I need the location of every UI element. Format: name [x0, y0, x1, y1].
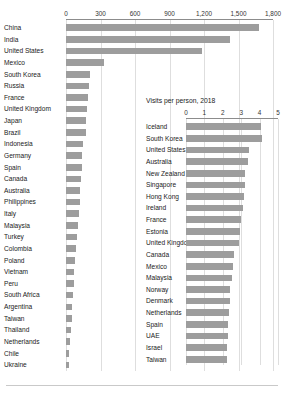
- category-label: Netherlands: [146, 307, 186, 319]
- bar: [186, 298, 230, 305]
- bar: [186, 135, 262, 142]
- bar-row: Ireland: [0, 202, 285, 214]
- bar: [66, 71, 90, 78]
- bar-row: Spain: [0, 319, 285, 331]
- bar: [186, 333, 228, 340]
- category-label: Iceland: [146, 121, 186, 133]
- bar: [186, 182, 245, 189]
- bar-row: Hong Kong: [0, 191, 285, 203]
- category-label: Russia: [4, 80, 62, 92]
- category-label: Taiwan: [146, 354, 186, 366]
- x-axis-line: [186, 118, 278, 119]
- bar: [186, 321, 228, 328]
- category-label: South Korea: [146, 133, 186, 145]
- x-tick-label: 1,500: [225, 10, 253, 17]
- bar-row: Singapore: [0, 179, 285, 191]
- x-tick-label: 900: [156, 10, 184, 17]
- x-tick-label: 1,800: [259, 10, 285, 17]
- bar-row: Denmark: [0, 295, 285, 307]
- bar: [66, 24, 259, 31]
- bar: [186, 228, 240, 235]
- bar: [186, 123, 261, 130]
- bar: [186, 193, 244, 200]
- bar: [186, 286, 230, 293]
- bar-row: France: [0, 92, 285, 104]
- bar: [66, 59, 104, 66]
- category-label: Denmark: [146, 295, 186, 307]
- category-label: New Zealand: [146, 168, 186, 180]
- bar-row: Australia: [0, 156, 285, 168]
- category-label: Mexico: [4, 57, 62, 69]
- category-label: South Korea: [4, 69, 62, 81]
- category-label: Australia: [146, 156, 186, 168]
- bar-row: United States: [0, 144, 285, 156]
- category-label: United States: [4, 45, 62, 57]
- bar-row: United Kingdom: [0, 237, 285, 249]
- bar-row: South Korea: [0, 69, 285, 81]
- bar-row: Israel: [0, 342, 285, 354]
- category-label: Estonia: [146, 226, 186, 238]
- category-label: Israel: [146, 342, 186, 354]
- bar-row: Norway: [0, 284, 285, 296]
- bar-row: Netherlands: [0, 307, 285, 319]
- bar: [186, 344, 227, 351]
- bar: [186, 170, 245, 177]
- bar: [66, 106, 87, 113]
- bar-row: Iceland: [0, 121, 285, 133]
- bar-row: Mexico: [0, 261, 285, 273]
- bar-row: Estonia: [0, 226, 285, 238]
- bar-row: New Zealand: [0, 168, 285, 180]
- category-label: UAE: [146, 330, 186, 342]
- bar-row: UAE: [0, 330, 285, 342]
- bar: [66, 83, 89, 90]
- category-label: United Kingdom: [146, 237, 186, 249]
- bar-row: Canada: [0, 249, 285, 261]
- bar: [186, 240, 239, 247]
- category-label: United Kingdom: [4, 103, 62, 115]
- category-label: Ireland: [146, 202, 186, 214]
- bar: [66, 36, 230, 43]
- bar-row: United States: [0, 45, 285, 57]
- bar: [186, 263, 233, 270]
- bar: [66, 48, 202, 55]
- bar: [186, 205, 243, 212]
- category-label: China: [4, 22, 62, 34]
- x-tick-label: 1,200: [190, 10, 218, 17]
- bar: [186, 147, 249, 154]
- bar-row: France: [0, 214, 285, 226]
- category-label: Norway: [146, 284, 186, 296]
- bar: [186, 158, 248, 165]
- category-label: Canada: [146, 249, 186, 261]
- footer-divider: [6, 385, 278, 386]
- bar-row: India: [0, 34, 285, 46]
- bar: [186, 251, 234, 258]
- x-axis-line: [66, 19, 273, 20]
- x-tick-label: 300: [87, 10, 115, 17]
- bar-row: South Korea: [0, 133, 285, 145]
- x-tick-label: 600: [121, 10, 149, 17]
- category-label: France: [146, 214, 186, 226]
- category-label: Singapore: [146, 179, 186, 191]
- category-label: Spain: [146, 319, 186, 331]
- category-label: India: [4, 34, 62, 46]
- category-label: Malaysia: [146, 272, 186, 284]
- bar: [186, 356, 227, 363]
- x-tick-label: 5: [264, 109, 285, 116]
- bar-row: Russia: [0, 80, 285, 92]
- bar-row: Taiwan: [0, 354, 285, 366]
- bar-row: China: [0, 22, 285, 34]
- bar: [66, 94, 88, 101]
- bar: [186, 216, 241, 223]
- category-label: Mexico: [146, 261, 186, 273]
- bar-row: Mexico: [0, 57, 285, 69]
- bar-row: Malaysia: [0, 272, 285, 284]
- bar: [186, 309, 229, 316]
- category-label: France: [4, 92, 62, 104]
- category-label: United States: [146, 144, 186, 156]
- category-label: Hong Kong: [146, 191, 186, 203]
- bar: [186, 275, 232, 282]
- x-tick-label: 0: [52, 10, 80, 17]
- right-chart-title: Visits per person, 2018: [146, 97, 215, 104]
